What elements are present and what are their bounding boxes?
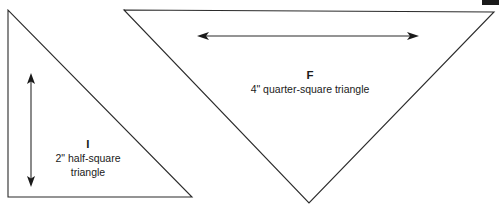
quarter-square-triangle-label: F 4" quarter-square triangle	[230, 68, 390, 96]
half-square-triangle-label: I 2" half-square triangle	[28, 137, 148, 179]
quilt-cutting-diagram: I 2" half-square triangle F 4" quarter-s…	[0, 0, 500, 209]
half-square-triangle-desc-line2: triangle	[28, 165, 148, 179]
quarter-square-triangle-shape	[124, 10, 494, 203]
quarter-square-triangle-desc-line1: 4" quarter-square triangle	[230, 82, 390, 96]
cropped-edge-mark	[482, 0, 499, 5]
half-square-triangle-desc-line1: 2" half-square	[28, 151, 148, 165]
half-square-triangle-key: I	[28, 137, 148, 151]
quarter-square-triangle-key: F	[230, 68, 390, 82]
